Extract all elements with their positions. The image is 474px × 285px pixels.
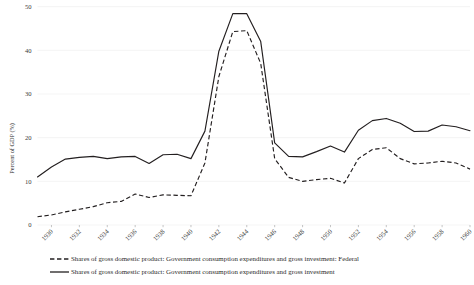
y-axis-tick-label: 30 xyxy=(25,90,32,97)
x-axis-tick-label: 1940 xyxy=(179,227,194,242)
y-axis-tick-label: 40 xyxy=(25,47,32,54)
y-axis-tick-label: 0 xyxy=(28,221,32,228)
series-line-federal xyxy=(38,31,471,217)
x-axis-tick-label: 1932 xyxy=(68,228,82,242)
y-axis-title: Percent of GDP (%) xyxy=(8,123,16,174)
series-group xyxy=(38,14,471,217)
x-axis-tick-label: 1948 xyxy=(291,227,306,242)
x-axis-tick-label: 1946 xyxy=(263,227,278,242)
y-axis-tick-label: 50 xyxy=(25,3,32,10)
x-axis-tick-label: 1930 xyxy=(40,227,55,242)
x-axis-tick-label: 1938 xyxy=(151,227,166,242)
x-axis-tick-label: 1936 xyxy=(124,227,139,242)
y-axis-tick-label: 20 xyxy=(25,134,32,141)
y-axis-tick-label: 10 xyxy=(25,178,32,185)
line-chart-canvas: 0102030405060Percent of GDP (%)193019321… xyxy=(0,0,474,285)
chart-legend: Shares of gross domestic product: Govern… xyxy=(50,255,359,275)
legend-label-federal: Shares of gross domestic product: Govern… xyxy=(71,255,359,262)
x-axis-tick-label: 1952 xyxy=(347,228,361,242)
legend-label-total: Shares of gross domestic product: Govern… xyxy=(71,268,335,275)
y-axis-ticks: 0102030405060 xyxy=(25,0,32,228)
x-axis-tick-label: 1960 xyxy=(458,227,473,242)
x-axis-tick-label: 1944 xyxy=(235,227,250,242)
chart-figure: 0102030405060Percent of GDP (%)193019321… xyxy=(0,0,474,285)
x-axis-ticks: 1930193219341936193819401942194419461948… xyxy=(40,225,473,242)
x-axis-tick-label: 1958 xyxy=(431,227,446,242)
x-axis-tick-label: 1956 xyxy=(403,227,418,242)
x-axis-tick-label: 1942 xyxy=(207,228,221,242)
x-axis-tick-label: 1934 xyxy=(96,227,111,242)
series-line-total xyxy=(38,14,471,177)
x-axis-tick-label: 1954 xyxy=(375,227,390,242)
gridlines xyxy=(38,0,471,225)
x-axis-tick-label: 1950 xyxy=(319,227,334,242)
